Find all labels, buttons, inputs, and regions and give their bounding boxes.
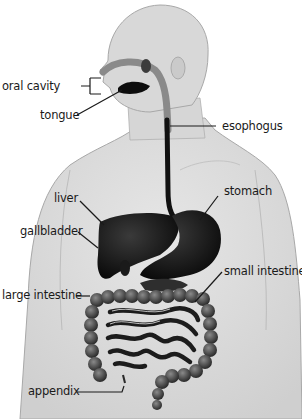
label-large-intestine: large intestine (2, 290, 82, 302)
digestive-system-diagram: oral cavity tongue esophogus liver stoma… (0, 0, 302, 419)
head (100, 5, 208, 112)
label-liver: liver (54, 193, 78, 205)
leader-oral-cavity (81, 78, 101, 94)
anatomy-illustration (0, 0, 302, 419)
label-stomach: stomach (224, 186, 272, 198)
label-gallbladder: gallbladder (20, 226, 82, 238)
label-tongue: tongue (40, 110, 79, 122)
label-appendix: appendix (28, 386, 80, 398)
label-small-intestine: small intestine (224, 266, 302, 278)
label-oral-cavity: oral cavity (2, 81, 60, 93)
label-esophogus: esophogus (222, 121, 283, 133)
